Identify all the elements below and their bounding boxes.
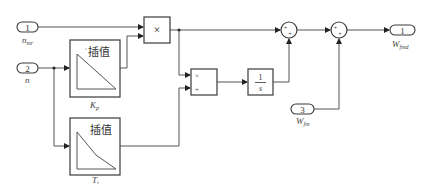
outport-1-number: 1 — [400, 26, 405, 36]
integrator-numerator: 1 — [259, 73, 263, 82]
outport-1[interactable]: 1 — [390, 25, 415, 36]
branch-point-n — [53, 67, 56, 70]
divide-mul-symbol: × — [195, 72, 199, 80]
inport-1-number: 1 — [25, 23, 30, 33]
lookup-ti-title: 插值 — [90, 123, 112, 137]
outport-1-label: Wfmd — [392, 39, 410, 50]
lookup-table-kp[interactable]: 插值 — [70, 40, 120, 97]
product-symbol: × — [154, 23, 161, 37]
inport-2-number: 2 — [25, 64, 30, 74]
inport-1[interactable]: 1 — [17, 22, 38, 33]
lookup-ti-label: Ti — [92, 175, 99, 184]
simulink-diagram: 1 nmr 2 n 插值 Kp 插值 Ti × × ÷ 1 s — [0, 0, 424, 184]
wire-product-to-divide — [179, 30, 190, 75]
integrator-denominator: s — [259, 84, 262, 93]
lookup-kp-label: Kp — [89, 100, 99, 111]
integrator-block[interactable]: 1 s — [248, 69, 273, 95]
wire-kp-to-product — [120, 36, 143, 68]
sum-block-2[interactable]: + + — [331, 22, 347, 38]
inport-1-label: nmr — [22, 35, 34, 46]
inport-3-number: 3 — [300, 105, 305, 115]
divide-block[interactable]: × ÷ — [191, 69, 217, 95]
wire-integrator-to-sum1 — [273, 39, 289, 82]
sum-block-1[interactable]: + + — [281, 22, 297, 38]
inport-2-label: n — [25, 75, 30, 85]
inport-3-label: Wfm — [296, 116, 310, 127]
wire-n-to-ti — [54, 68, 69, 146]
divide-div-symbol: ÷ — [195, 85, 199, 93]
wire-ti-to-divide — [120, 88, 190, 146]
inport-2[interactable]: 2 — [17, 63, 38, 74]
product-block[interactable]: × — [144, 17, 170, 43]
wire-wfm-to-sum2 — [314, 39, 339, 109]
lookup-kp-title: 插值 — [88, 45, 110, 59]
lookup-table-ti[interactable]: 插值 — [70, 118, 120, 175]
inport-3[interactable]: 3 — [291, 104, 314, 115]
